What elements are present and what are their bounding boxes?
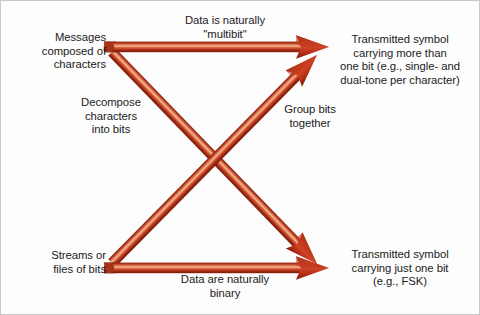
label-data-is-naturally-multibit: Data is naturally "multibit"	[150, 14, 300, 41]
label-decompose-characters-into-bits: Decompose characters into bits	[52, 96, 170, 137]
label-transmitted-symbol-multibit: Transmitted symbol carrying more than on…	[322, 33, 478, 87]
label-transmitted-symbol-single-bit: Transmitted symbol carrying just one bit…	[322, 248, 478, 289]
label-messages-composed-of-characters: Messages composed of characters	[2, 31, 106, 72]
label-group-bits-together: Group bits together	[256, 103, 364, 130]
label-data-are-naturally-binary: Data are naturally binary	[150, 273, 300, 300]
label-streams-or-files-of-bits: Streams or files of bits	[2, 249, 106, 276]
diagram-canvas: Messages composed of characters Decompos…	[0, 0, 480, 315]
